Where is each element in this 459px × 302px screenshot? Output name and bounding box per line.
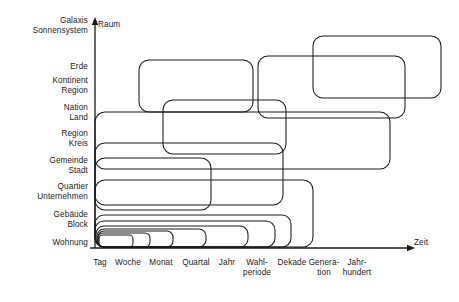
x-axis-label-2-line-0: Monat	[149, 258, 172, 268]
y-axis-label-3-line-1: Land	[0, 113, 88, 123]
y-axis-label-7-line-1: Block	[0, 220, 88, 230]
x-axis-label-3-line-0: Quartal	[182, 258, 210, 268]
box-nation-dekade	[95, 112, 390, 169]
y-axis-label-7-line-0: Gebäude	[0, 210, 88, 220]
x-axis-label-4-line-0: Jahr	[219, 258, 235, 268]
x-axis-label-5-line-1: periode	[243, 268, 271, 278]
y-axis-label-8: Wohnung	[0, 238, 88, 248]
y-axis-label-4-line-1: Kreis	[0, 139, 88, 149]
x-axis-label-5-line-0: Wahl-	[243, 258, 271, 268]
y-axis-name-raum: Raum	[98, 20, 120, 30]
x-axis-label-1-line-0: Woche	[115, 258, 141, 268]
y-axis-label-1-line-0: Erde	[0, 62, 88, 72]
box-wohnung-quartal	[97, 229, 206, 247]
x-axis-label-2: Monat	[149, 258, 172, 268]
y-axis-label-2-line-0: Kontinent	[0, 76, 88, 86]
x-axis-label-8: Jahr-hundert	[343, 258, 371, 277]
x-axis-label-7-line-1: tion	[309, 268, 340, 278]
y-axis-label-3-line-0: Nation	[0, 103, 88, 113]
y-axis-label-5: GemeindeStadt	[0, 156, 88, 175]
x-axis-label-6-line-0: Dekade	[278, 258, 307, 268]
x-axis-label-8-line-1: hundert	[343, 268, 371, 278]
box-wohnung-tag	[99, 235, 133, 247]
axes-group	[90, 17, 415, 251]
x-axis-label-6: Dekade	[278, 258, 307, 268]
x-axis-label-0: Tag	[93, 258, 107, 268]
y-axis-label-2: KontinentRegion	[0, 76, 88, 95]
y-axis-label-4-line-0: Region	[0, 129, 88, 139]
nested-boxes-group	[95, 36, 441, 247]
y-axis-label-6: QuartierUnternehmen	[0, 182, 88, 201]
box-erde-wahlperiode	[139, 60, 253, 112]
box-erde-generation	[258, 56, 405, 118]
x-axis-label-1: Woche	[115, 258, 141, 268]
y-axis-label-5-line-0: Gemeinde	[0, 156, 88, 166]
x-axis-label-3: Quartal	[182, 258, 210, 268]
box-quartier-dekade	[95, 180, 313, 247]
x-axis-name-zeit: Zeit	[414, 238, 428, 248]
x-axis-label-7: Genera-tion	[309, 258, 340, 277]
box-galaxis-jahrhundert	[313, 36, 441, 98]
y-axis-label-8-line-0: Wohnung	[0, 238, 88, 248]
y-axis-label-4: RegionKreis	[0, 129, 88, 148]
y-axis-label-6-line-1: Unternehmen	[0, 192, 88, 202]
y-axis-label-3: NationLand	[0, 103, 88, 122]
y-axis-label-0-line-0: Galaxis	[0, 16, 88, 26]
x-axis-label-0-line-0: Tag	[93, 258, 107, 268]
x-axis-label-4: Jahr	[219, 258, 235, 268]
y-axis-label-7: GebäudeBlock	[0, 210, 88, 229]
y-axis-label-5-line-1: Stadt	[0, 166, 88, 176]
x-axis-label-8-line-0: Jahr-	[343, 258, 371, 268]
box-kontinent-generation	[163, 100, 286, 154]
diagram-canvas: GalaxisSonnensystemErdeKontinentRegionNa…	[0, 0, 459, 302]
y-axis-label-0-line-1: Sonnensystem	[0, 26, 88, 36]
box-region-dekade2	[95, 143, 283, 205]
box-gemeinde-wahl	[95, 158, 211, 210]
y-axis-label-0: GalaxisSonnensystem	[0, 16, 88, 35]
y-axis-label-2-line-1: Region	[0, 86, 88, 96]
y-axis-label-1: Erde	[0, 62, 88, 72]
x-axis-label-7-line-0: Genera-	[309, 258, 340, 268]
y-axis-label-6-line-0: Quartier	[0, 182, 88, 192]
x-axis-label-5: Wahl-periode	[243, 258, 271, 277]
space-time-scales-diagram	[0, 0, 459, 302]
